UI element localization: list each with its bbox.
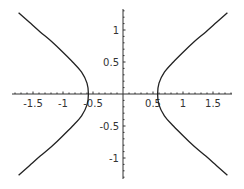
y-tick-label: 1 [113, 25, 119, 36]
hyperbola-plot: -1.5 -1 -0.5 0.5 1 1.5 1 0.5 -0.5 -1 [0, 0, 244, 189]
axes [12, 9, 232, 179]
y-tick-label: 0.5 [103, 57, 119, 68]
x-tick-label: -1 [58, 98, 68, 109]
x-tick-labels: -1.5 -1 -0.5 0.5 1 1.5 [23, 98, 221, 109]
x-tick-label: -1.5 [23, 98, 43, 109]
y-tick-label: -1 [109, 153, 119, 164]
y-tick-label: -0.5 [99, 121, 119, 132]
x-tick-label: 1.5 [205, 98, 221, 109]
x-tick-label: 1 [180, 98, 186, 109]
